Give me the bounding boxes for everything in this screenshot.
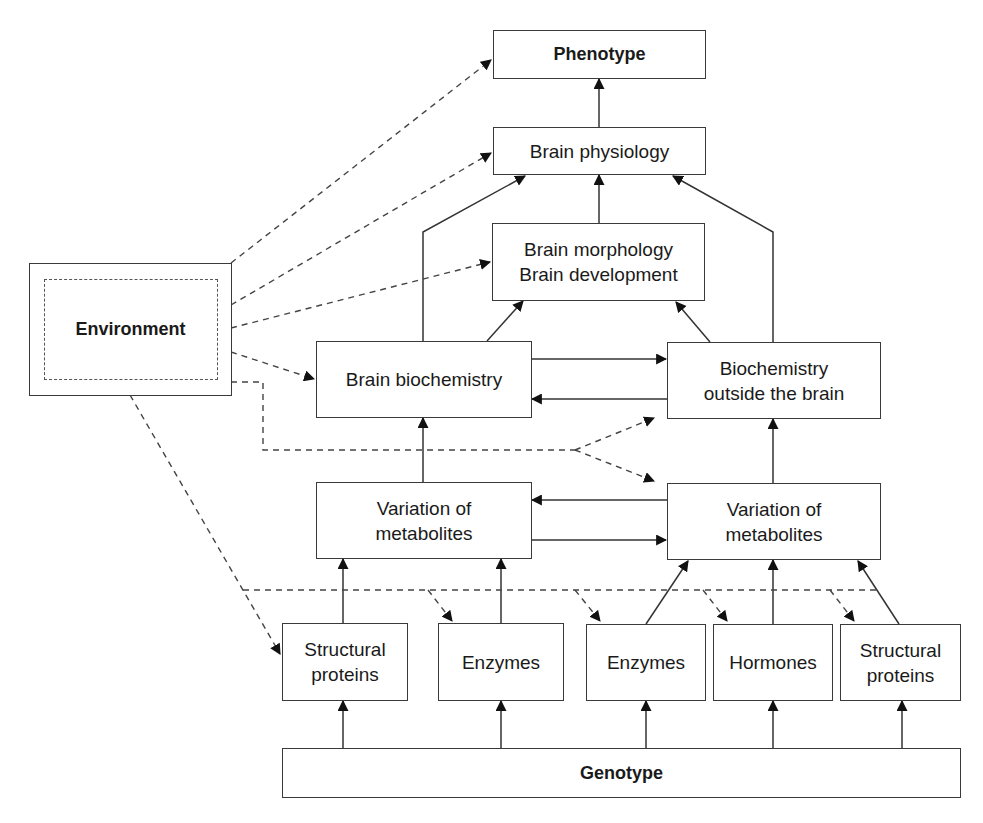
edge-env-to-structright	[830, 590, 854, 621]
environment-inner-dashed-border	[44, 279, 218, 380]
edge-env-to-morphology	[231, 262, 490, 328]
node-enzymes-left: Enzymes	[438, 623, 564, 701]
edge-env-to-physiology	[231, 153, 491, 305]
node-label: Brain physiology	[530, 139, 669, 164]
node-hormones: Hormones	[713, 624, 833, 701]
edge-env-to-outsidebio	[575, 418, 654, 450]
node-enzymes-right: Enzymes	[586, 624, 706, 701]
edge-env-to-brainbio	[231, 352, 314, 379]
node-label: Enzymes	[607, 650, 685, 675]
node-brain-physiology: Brain physiology	[493, 127, 706, 175]
edge-env-to-structleft	[130, 395, 280, 654]
edge-brainbio-to-morphology	[487, 301, 523, 341]
edge-enzright-to-varright	[646, 561, 688, 624]
edge-env-to-hormones	[703, 590, 727, 621]
node-label: Biochemistry outside the brain	[704, 356, 845, 406]
node-label: Brain biochemistry	[346, 367, 502, 392]
node-genotype: Genotype	[282, 748, 961, 798]
edge-structright-to-varright	[858, 561, 899, 624]
node-label: Structural proteins	[304, 637, 385, 687]
node-phenotype: Phenotype	[493, 30, 706, 79]
node-brain-morphology: Brain morphology Brain development	[492, 223, 705, 301]
node-variation-metabolites-right: Variation of metabolites	[667, 483, 881, 560]
node-label: Phenotype	[553, 42, 645, 67]
node-label: Hormones	[729, 650, 817, 675]
node-structural-proteins-left: Structural proteins	[282, 623, 408, 701]
edge-outsidebio-to-morphology	[676, 302, 710, 342]
node-label: Genotype	[580, 761, 663, 786]
node-label: Variation of metabolites	[375, 496, 472, 546]
node-brain-biochemistry: Brain biochemistry	[316, 341, 532, 418]
node-label: Enzymes	[462, 650, 540, 675]
node-label: Structural proteins	[860, 638, 941, 688]
edge-env-to-enzleft	[428, 590, 452, 621]
edge-env-to-varright	[575, 450, 654, 481]
edge-env-to-enzright	[575, 590, 600, 621]
node-structural-proteins-right: Structural proteins	[840, 624, 961, 701]
node-label: Variation of metabolites	[725, 497, 822, 547]
edge-env-to-phenotype	[231, 60, 491, 263]
node-biochemistry-outside-brain: Biochemistry outside the brain	[667, 342, 881, 419]
node-label: Brain morphology Brain development	[519, 237, 677, 287]
node-variation-metabolites-left: Variation of metabolites	[316, 482, 532, 559]
